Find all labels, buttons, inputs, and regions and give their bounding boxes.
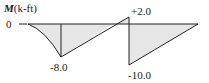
value-label-min2: -10.0 [128, 70, 151, 81]
value-label-min1: -8.0 [50, 62, 67, 73]
region-1-fill [28, 24, 61, 57]
moment-diagram [0, 0, 209, 83]
value-label-max: +2.0 [131, 6, 151, 17]
